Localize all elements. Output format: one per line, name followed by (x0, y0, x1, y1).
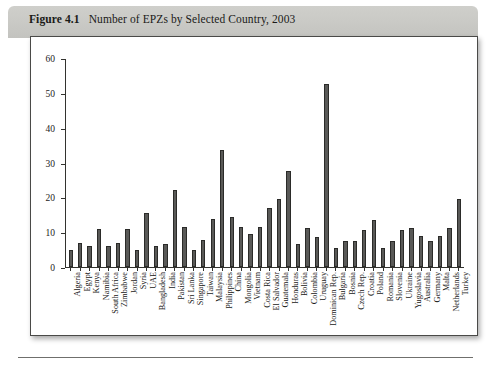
x-axis-tick (137, 267, 138, 271)
x-axis-tick (222, 267, 223, 271)
x-axis-tick (430, 267, 431, 271)
bar-slot (208, 58, 217, 267)
bar (277, 199, 281, 267)
x-axis-tick (241, 267, 242, 271)
bar-slot (236, 58, 245, 267)
x-axis-tick (288, 267, 289, 271)
x-axis-labels: AlgeriaEgyptKenyaNamibiaSouth AfricaZimb… (66, 272, 464, 334)
bar (438, 236, 442, 267)
x-label-slot: Zimbabwe (113, 272, 122, 334)
bar-slot (312, 58, 321, 267)
x-axis-tick (203, 267, 204, 271)
bar-slot (407, 58, 416, 267)
x-axis-tick (297, 267, 298, 271)
x-axis-tick (392, 267, 393, 271)
bar (390, 241, 394, 267)
bar-slot (123, 58, 132, 267)
x-axis-tick (326, 267, 327, 271)
x-label-slot: Uruguay (312, 272, 321, 334)
x-label-slot: Mongolia (236, 272, 245, 334)
bar (97, 229, 101, 267)
x-label-slot: Jordan (123, 272, 132, 334)
bar-slot (113, 58, 122, 267)
x-label-slot: Algeria (66, 272, 75, 334)
bar (428, 241, 432, 267)
bar (144, 213, 148, 267)
bar-slot (397, 58, 406, 267)
bar-series (66, 58, 464, 267)
bar (267, 208, 271, 267)
bar (163, 244, 167, 267)
bar-slot (416, 58, 425, 267)
bar (353, 241, 357, 267)
bar (116, 243, 120, 267)
chart-frame: 0102030405060 AlgeriaEgyptKenyaNamibiaSo… (30, 36, 478, 336)
y-axis-tick: 60 (61, 59, 65, 60)
bar (343, 241, 347, 267)
x-axis-tick (449, 267, 450, 271)
x-label-slot: Malaysia (208, 272, 217, 334)
x-label-slot: Poland (369, 272, 378, 334)
bar-slot (303, 58, 312, 267)
bar (419, 236, 423, 267)
bar-slot (75, 58, 84, 267)
bar-slot (66, 58, 75, 267)
x-axis-tick (345, 267, 346, 271)
x-label-slot: Bangladesh (151, 272, 160, 334)
x-label-slot: Syria (132, 272, 141, 334)
bar-slot (189, 58, 198, 267)
bar-slot (132, 58, 141, 267)
bar-slot (274, 58, 283, 267)
y-axis-tick-label: 0 (50, 263, 55, 273)
x-label-slot: Egypt (75, 272, 84, 334)
x-axis-tick (421, 267, 422, 271)
x-axis-tick-label: Turkey (462, 272, 470, 295)
bar (258, 227, 262, 267)
x-label-slot: Costa Rica (255, 272, 264, 334)
x-axis-tick (174, 267, 175, 271)
figure-caption: Figure 4.1Number of EPZs by Selected Cou… (29, 13, 295, 25)
figure-panel: Figure 4.1Number of EPZs by Selected Cou… (8, 6, 478, 336)
x-axis-tick (364, 267, 365, 271)
figure-header-band: Figure 4.1Number of EPZs by Selected Cou… (8, 6, 478, 38)
bar-slot (265, 58, 274, 267)
x-label-slot: Slovenia (388, 272, 397, 334)
bar (230, 217, 234, 268)
y-axis-tick: 50 (61, 94, 65, 95)
y-axis-tick: 0 (61, 268, 65, 269)
y-axis-tick-label: 10 (46, 228, 56, 238)
x-axis-tick (402, 267, 403, 271)
x-axis-tick (440, 267, 441, 271)
bar-slot (218, 58, 227, 267)
x-axis-tick (269, 267, 270, 271)
x-label-slot: Malta (435, 272, 444, 334)
x-label-slot: Honduras (284, 272, 293, 334)
page-divider-rule (18, 357, 473, 358)
bar-slot (94, 58, 103, 267)
x-label-slot: Yugoslavia (407, 272, 416, 334)
x-label-slot: Namibia (94, 272, 103, 334)
x-label-slot: Germany (426, 272, 435, 334)
bar (286, 171, 290, 267)
x-label-slot: Bosnia (341, 272, 350, 334)
bar (78, 243, 82, 267)
y-axis-tick: 40 (61, 129, 65, 130)
x-label-slot: El Salvador (265, 272, 274, 334)
x-axis-tick (260, 267, 261, 271)
y-axis-tick-label: 60 (46, 54, 56, 64)
x-label-slot: Guatemala (274, 272, 283, 334)
bar-slot (331, 58, 340, 267)
x-axis-line (65, 267, 464, 268)
bar (381, 248, 385, 267)
x-label-slot: Dominican Rep. (322, 272, 331, 334)
bar-slot (293, 58, 302, 267)
bar (447, 228, 451, 267)
bar (248, 234, 252, 267)
bar (457, 199, 461, 267)
bar-slot (170, 58, 179, 267)
figure-title: Number of EPZs by Selected Country, 2003 (89, 13, 296, 25)
x-label-slot: Australia (416, 272, 425, 334)
x-label-slot: China (227, 272, 236, 334)
x-label-slot: UAE (142, 272, 151, 334)
bar-slot (142, 58, 151, 267)
